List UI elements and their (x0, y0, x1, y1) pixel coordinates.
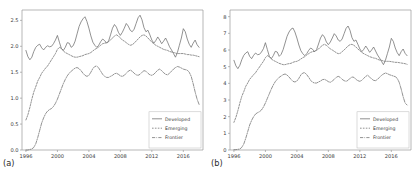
x-axis-ticks-a: 199620002004200820122016 (19, 150, 189, 159)
legend-label-developed: Developed (373, 117, 398, 122)
x-tick-label: 2008 (322, 153, 335, 159)
y-tick-label: 0.5 (10, 121, 18, 127)
x-tick-label: 2000 (259, 153, 272, 159)
x-tick-label: 2004 (82, 153, 95, 159)
x-tick-label: 2012 (353, 153, 366, 159)
y-tick-label: 7 (223, 30, 226, 36)
y-tick-label: 0 (223, 147, 226, 153)
legend-label-frontier: Frontier (165, 135, 183, 140)
x-tick-label: 1996 (227, 153, 240, 159)
x-tick-label: 2016 (177, 153, 190, 159)
x-tick-label: 1996 (19, 153, 32, 159)
x-tick-label: 2004 (290, 153, 303, 159)
legend-b: DevelopedEmergingFrontier (357, 112, 409, 148)
panel-label-a: (a) (3, 158, 14, 168)
series-line-emerging (234, 44, 407, 122)
chart-panel-b: 012345678 199620002004200820122016 Devel… (208, 0, 416, 174)
y-tick-label: 3 (223, 97, 226, 103)
y-tick-label: 4 (223, 80, 226, 86)
y-tick-label: 8 (223, 14, 226, 20)
x-tick-label: 2012 (145, 153, 158, 159)
chart-svg-b: 012345678 199620002004200820122016 Devel… (208, 0, 416, 174)
legend-a: DevelopedEmergingFrontier (149, 112, 201, 148)
y-tick-label: 2 (223, 114, 226, 120)
y-tick-label: 5 (223, 64, 226, 70)
y-tick-label: 1.5 (10, 69, 18, 75)
y-tick-label: 1 (223, 130, 226, 136)
legend-label-developed: Developed (165, 117, 190, 122)
y-tick-label: 2.0 (10, 43, 18, 49)
panel-label-b: (b) (211, 158, 223, 168)
y-tick-label: 6 (223, 47, 226, 53)
x-tick-label: 2016 (385, 153, 398, 159)
y-axis-ticks-a: 0.00.51.01.52.02.5 (10, 17, 22, 153)
y-axis-ticks-b: 012345678 (223, 14, 230, 153)
y-tick-label: 0.0 (10, 147, 18, 153)
legend-label-frontier: Frontier (373, 135, 391, 140)
series-line-emerging (26, 35, 199, 120)
legend-label-emerging: Emerging (373, 126, 396, 131)
legend-label-emerging: Emerging (165, 126, 188, 131)
x-tick-label: 2000 (51, 153, 64, 159)
x-tick-label: 2008 (114, 153, 127, 159)
y-tick-label: 2.5 (10, 17, 18, 23)
x-axis-ticks-b: 199620002004200820122016 (227, 150, 397, 159)
chart-svg-a: 0.00.51.01.52.02.5 199620002004200820122… (0, 0, 208, 174)
chart-panel-a: 0.00.51.01.52.02.5 199620002004200820122… (0, 0, 208, 174)
y-tick-label: 1.0 (10, 95, 18, 101)
figure-container: 0.00.51.01.52.02.5 199620002004200820122… (0, 0, 416, 174)
